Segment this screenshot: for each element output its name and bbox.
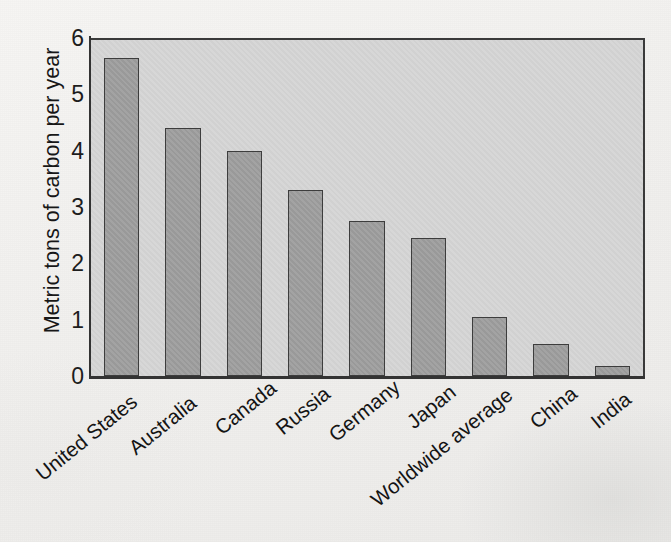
x-tick-label: United States [31,390,142,486]
y-tick-label: 6 [71,27,84,50]
x-axis-line [89,376,645,379]
bar [227,151,262,376]
bar [472,317,507,376]
bar [104,58,139,376]
bar [533,344,568,376]
y-axis-title: Metric tons of carbon per year [40,41,65,341]
x-tick-label: Russia [271,382,335,440]
bars-layer [91,38,643,376]
x-tick-label: India [586,387,636,434]
y-tick-label: 5 [71,83,84,106]
y-tick-label: 2 [71,252,84,275]
x-tick-label: Germany [324,375,405,447]
bar [411,238,446,376]
bar [595,366,630,376]
scanned-page: 0123456 Metric tons of carbon per year U… [0,0,671,542]
y-tick-label: 4 [71,139,84,162]
x-tick-label: Canada [210,376,281,440]
y-tick-label: 0 [71,365,84,388]
bar [165,128,200,376]
x-tick-label: China [525,381,582,433]
bar-chart: 0123456 Metric tons of carbon per year U… [0,0,671,542]
y-tick-label: 3 [71,196,84,219]
y-tick-label: 1 [71,308,84,331]
bar [288,190,323,376]
bar [349,221,384,376]
